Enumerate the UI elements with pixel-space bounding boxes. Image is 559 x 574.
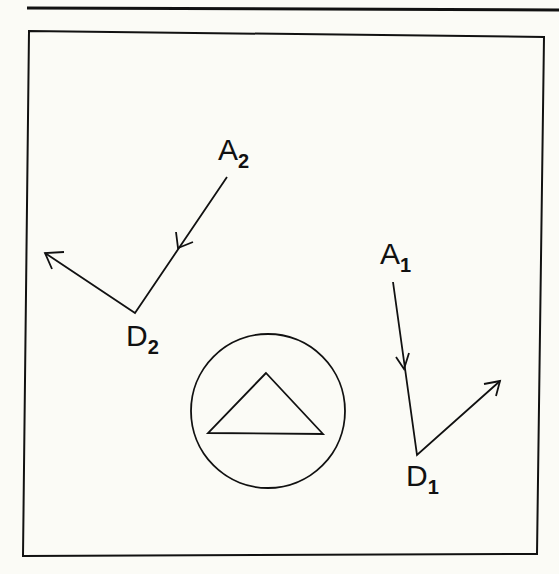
trajectory-1 — [393, 282, 500, 455]
label-a2-sub: 2 — [238, 150, 249, 172]
label-a1-sub: 1 — [400, 254, 411, 276]
top-rule — [27, 8, 559, 10]
label-a1: A1 — [380, 237, 411, 276]
label-d1-main: D — [406, 459, 428, 492]
circle-shape — [191, 334, 345, 488]
label-d2-main: D — [126, 319, 148, 352]
label-a2-main: A — [218, 133, 238, 166]
diagram-canvas: A2 D2 A1 D1 — [0, 0, 559, 574]
label-d1: D1 — [406, 459, 439, 498]
label-a2: A2 — [218, 133, 249, 172]
diagram-frame — [23, 31, 544, 556]
label-a1-main: A — [380, 237, 400, 270]
label-d2-sub: 2 — [148, 336, 159, 358]
label-d2: D2 — [126, 319, 159, 358]
triangle-icon — [208, 373, 323, 434]
trajectory-2 — [45, 177, 227, 313]
trajectory-1-line — [393, 282, 500, 455]
center-symbol — [191, 334, 345, 488]
label-d1-sub: 1 — [428, 476, 439, 498]
trajectory-2-line — [45, 177, 227, 313]
